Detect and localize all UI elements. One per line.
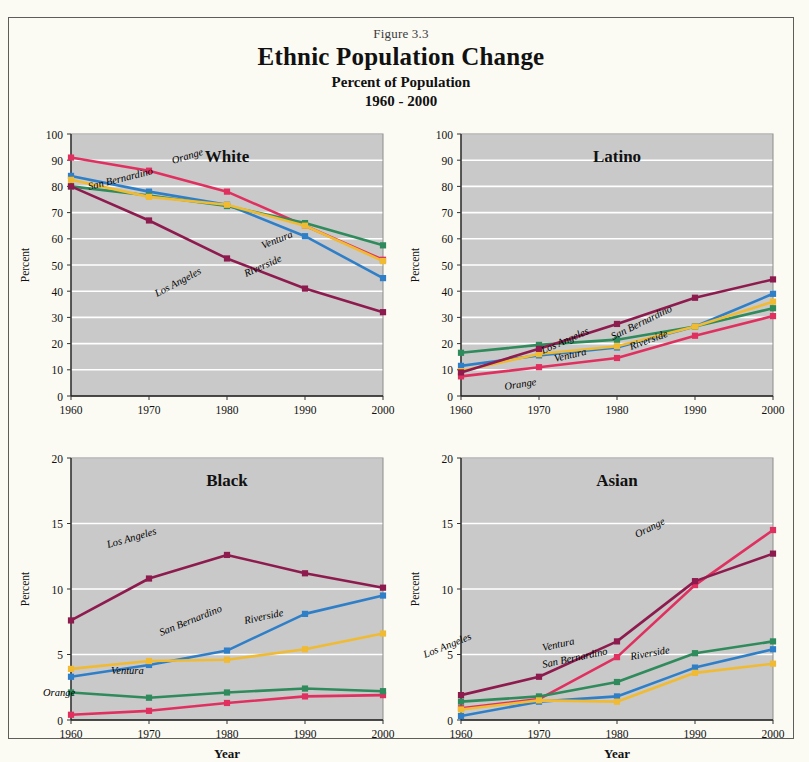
- y-axis-tick-label: 10: [52, 584, 64, 596]
- data-point-marker: [770, 291, 776, 297]
- data-point-marker: [770, 661, 776, 667]
- chart-svg: 0102030405060708090100196019701980199020…: [13, 122, 397, 442]
- y-axis-tick-label: 60: [52, 233, 64, 245]
- y-axis-tick-label: 50: [52, 260, 64, 272]
- data-point-marker: [536, 697, 542, 703]
- y-axis-tick-label: 15: [52, 518, 64, 530]
- y-axis-title: Percent: [409, 247, 421, 282]
- x-axis-tick-label: 2000: [372, 404, 395, 416]
- chart-title: White: [205, 147, 250, 166]
- data-point-marker: [458, 692, 464, 698]
- data-point-marker: [224, 255, 230, 261]
- data-point-marker: [224, 552, 230, 558]
- chart-panel-black: 0510152019601970198019902000PercentYearB…: [13, 446, 397, 762]
- data-point-marker: [146, 217, 152, 223]
- figure-title: Ethnic Population Change: [9, 43, 793, 71]
- chart-svg: 0510152019601970198019902000PercentYearA…: [403, 446, 787, 762]
- data-point-marker: [146, 194, 152, 200]
- figure-frame: Figure 3.3 Ethnic Population Change Perc…: [8, 17, 794, 739]
- y-axis-tick-label: 60: [442, 233, 454, 245]
- data-point-marker: [224, 189, 230, 195]
- x-axis-tick-label: 1980: [606, 404, 629, 416]
- data-point-marker: [458, 713, 464, 719]
- y-axis-tick-label: 30: [52, 312, 64, 324]
- y-axis-tick-label: 0: [57, 715, 63, 727]
- y-axis-tick-label: 20: [442, 453, 454, 465]
- y-axis-tick-label: 0: [447, 715, 453, 727]
- data-point-marker: [146, 695, 152, 701]
- data-point-marker: [380, 630, 386, 636]
- data-point-marker: [770, 276, 776, 282]
- data-point-marker: [224, 657, 230, 663]
- x-axis-tick-label: 1990: [294, 404, 317, 416]
- x-axis-tick-label: 1990: [294, 728, 317, 740]
- y-axis-tick-label: 90: [52, 155, 64, 167]
- data-point-marker: [68, 712, 74, 718]
- data-point-marker: [458, 369, 464, 375]
- x-axis-tick-label: 1960: [450, 404, 473, 416]
- chart-grid: 0102030405060708090100196019701980199020…: [9, 122, 795, 738]
- data-point-marker: [146, 575, 152, 581]
- data-point-marker: [302, 646, 308, 652]
- data-point-marker: [302, 223, 308, 229]
- data-point-marker: [458, 699, 464, 705]
- data-point-marker: [614, 699, 620, 705]
- x-axis-title: Year: [214, 746, 240, 761]
- data-point-marker: [380, 585, 386, 591]
- data-point-marker: [692, 323, 698, 329]
- figure-header: Figure 3.3 Ethnic Population Change Perc…: [9, 26, 793, 110]
- data-point-marker: [770, 527, 776, 533]
- y-axis-tick-label: 20: [442, 338, 454, 350]
- x-axis-tick-label: 1970: [528, 404, 551, 416]
- chart-svg: 0102030405060708090100196019701980199020…: [403, 122, 787, 442]
- x-axis-tick-label: 2000: [372, 728, 395, 740]
- y-axis-tick-label: 70: [442, 207, 454, 219]
- x-axis-tick-label: 2000: [762, 404, 785, 416]
- y-axis-title: Percent: [19, 247, 31, 282]
- x-axis-tick-label: 1970: [138, 404, 161, 416]
- data-point-marker: [770, 305, 776, 311]
- data-point-marker: [692, 295, 698, 301]
- data-point-marker: [68, 154, 74, 160]
- y-axis-tick-label: 0: [57, 391, 63, 403]
- data-point-marker: [692, 650, 698, 656]
- x-axis-tick-label: 1980: [606, 728, 629, 740]
- data-point-marker: [770, 299, 776, 305]
- data-point-marker: [302, 611, 308, 617]
- data-point-marker: [302, 693, 308, 699]
- chart-panel-asian: 0510152019601970198019902000PercentYearA…: [403, 446, 787, 762]
- y-axis-tick-label: 20: [52, 338, 64, 350]
- y-axis-tick-label: 40: [52, 286, 64, 298]
- series-label-ventura: Ventura: [111, 665, 144, 676]
- data-point-marker: [614, 638, 620, 644]
- x-axis-tick-label: 1980: [216, 728, 239, 740]
- data-point-marker: [224, 700, 230, 706]
- data-point-marker: [146, 708, 152, 714]
- data-point-marker: [68, 674, 74, 680]
- y-axis-tick-label: 40: [442, 286, 454, 298]
- chart-title: Black: [206, 471, 248, 490]
- x-axis-title: Year: [604, 746, 630, 761]
- data-point-marker: [302, 285, 308, 291]
- data-point-marker: [614, 355, 620, 361]
- y-axis-tick-label: 10: [442, 584, 454, 596]
- y-axis-tick-label: 15: [442, 518, 454, 530]
- y-axis-tick-label: 100: [436, 129, 454, 141]
- y-axis-title: Percent: [19, 571, 31, 606]
- data-point-marker: [68, 666, 74, 672]
- data-point-marker: [692, 578, 698, 584]
- x-axis-tick-label: 2000: [762, 728, 785, 740]
- data-point-marker: [614, 343, 620, 349]
- x-axis-tick-label: 1980: [216, 404, 239, 416]
- data-point-marker: [380, 592, 386, 598]
- data-point-marker: [380, 275, 386, 281]
- data-point-marker: [536, 674, 542, 680]
- data-point-marker: [692, 670, 698, 676]
- y-axis-tick-label: 10: [442, 364, 454, 376]
- data-point-marker: [380, 688, 386, 694]
- data-point-marker: [770, 313, 776, 319]
- y-axis-title: Percent: [409, 571, 421, 606]
- data-point-marker: [692, 333, 698, 339]
- x-axis-tick-label: 1960: [60, 728, 83, 740]
- data-point-marker: [536, 364, 542, 370]
